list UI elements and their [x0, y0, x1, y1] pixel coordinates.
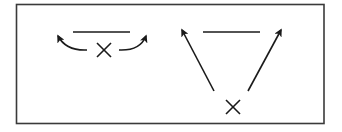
left-diagonal-arrow	[182, 30, 214, 91]
right-diagonal-arrow	[248, 30, 281, 91]
right-curved-arrow	[119, 36, 146, 50]
right-panel	[182, 30, 281, 114]
left-panel	[58, 32, 146, 57]
figure-frame	[17, 5, 325, 124]
diagram-canvas	[0, 0, 342, 132]
left-panel-cross-icon	[97, 43, 111, 57]
right-panel-cross-icon	[226, 100, 240, 114]
left-curved-arrow	[58, 36, 87, 50]
